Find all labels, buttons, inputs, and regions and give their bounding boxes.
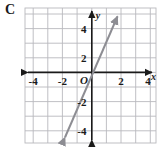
answer-choice-figure: C — [0, 0, 163, 148]
coordinate-plane-graph: -4 -2 2 4 4 2 -2 -4 O x y — [0, 0, 163, 148]
x-tick-label-neg4: -4 — [29, 75, 39, 87]
y-axis-label: y — [95, 10, 101, 21]
x-tick-label-neg2: -2 — [58, 75, 68, 87]
origin-label: O — [80, 74, 88, 86]
x-axis-label: x — [150, 71, 156, 82]
y-tick-label-4: 4 — [81, 23, 87, 35]
y-tick-label-neg2: -2 — [77, 96, 87, 108]
y-tick-label-neg4: -4 — [77, 125, 87, 137]
choice-letter-label: C — [5, 3, 15, 17]
y-tick-label-2: 2 — [81, 52, 87, 64]
x-tick-label-2: 2 — [118, 75, 124, 87]
